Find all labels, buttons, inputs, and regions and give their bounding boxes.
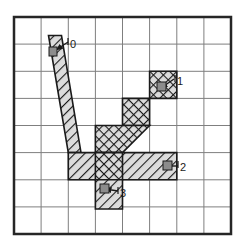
label-0: 0 xyxy=(70,38,76,50)
figure-canvas: 0 1 2 3 xyxy=(0,0,244,250)
label-3: 3 xyxy=(120,187,126,199)
endpoint-marker-1 xyxy=(157,82,166,91)
junction-block xyxy=(95,153,122,180)
endpoint-marker-0 xyxy=(49,47,57,56)
branch-1-elbow xyxy=(123,98,150,125)
hatched-grid-figure: 0 1 2 3 xyxy=(0,0,244,250)
endpoint-marker-3 xyxy=(100,184,109,193)
endpoint-marker-2 xyxy=(163,161,172,170)
label-1: 1 xyxy=(177,75,183,87)
label-2: 2 xyxy=(180,161,186,173)
